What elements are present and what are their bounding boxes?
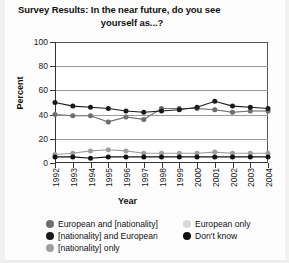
x-axis-tick-label: 1999: [175, 168, 185, 187]
legend-item[interactable]: [nationality] only: [46, 243, 120, 253]
plot-area-frame: [55, 42, 268, 163]
legend-item[interactable]: European only: [183, 219, 250, 229]
chart-legend: European and [nationality][nationality] …: [44, 219, 284, 261]
legend-item-label: [nationality] only: [58, 243, 120, 253]
x-axis-tick-label: 1994: [87, 168, 97, 187]
gridline: [55, 90, 268, 91]
legend-item[interactable]: Don't know: [183, 231, 237, 241]
y-axis-tick-label: 40: [8, 110, 48, 120]
x-axis-tick-label: 2000: [193, 168, 203, 187]
x-axis-tick-label: 1996: [122, 168, 132, 187]
y-axis-title: Percent: [15, 53, 25, 133]
legend-item-label: European only: [195, 219, 250, 229]
x-axis-tick-label: 2002: [229, 168, 239, 187]
y-axis-tick-label: 60: [8, 85, 48, 95]
legend-marker-icon: [183, 220, 191, 228]
x-axis-tick-label: 1995: [104, 168, 114, 187]
y-axis-tick-label: 20: [8, 134, 48, 144]
figure-root: Survey Results: In the near future, do y…: [0, 0, 289, 263]
gridline: [55, 66, 268, 67]
y-axis-tick: [50, 66, 56, 67]
x-axis-tick-label: 1997: [140, 168, 150, 187]
legend-item[interactable]: European and [nationality]: [46, 219, 158, 229]
y-axis-tick-label: 80: [8, 61, 48, 71]
x-axis-tick-label: 2001: [211, 168, 221, 187]
x-axis-tick-label: 1993: [69, 168, 79, 187]
gridline: [55, 139, 268, 140]
y-axis-tick: [50, 90, 56, 91]
legend-marker-icon: [46, 220, 54, 228]
legend-marker-icon: [46, 232, 54, 240]
y-axis-tick: [50, 42, 56, 43]
legend-item-label: [nationality] and European: [58, 231, 158, 241]
legend-marker-icon: [183, 232, 191, 240]
x-axis-title: Year: [118, 196, 137, 206]
y-axis-tick: [50, 139, 56, 140]
legend-marker-icon: [46, 244, 54, 252]
x-axis-tick-label: 2003: [246, 168, 256, 187]
gridline: [55, 115, 268, 116]
x-axis-tick-label: 1998: [158, 168, 168, 187]
legend-item-label: Don't know: [195, 231, 237, 241]
x-axis-tick-label: 1992: [51, 168, 61, 187]
y-axis-tick: [50, 115, 56, 116]
x-axis-tick-label: 2004: [264, 168, 274, 187]
legend-item-label: European and [nationality]: [58, 219, 158, 229]
legend-item[interactable]: [nationality] and European: [46, 231, 158, 241]
y-axis-tick-label: 100: [8, 37, 48, 47]
y-axis-tick-label: 0: [8, 158, 48, 168]
